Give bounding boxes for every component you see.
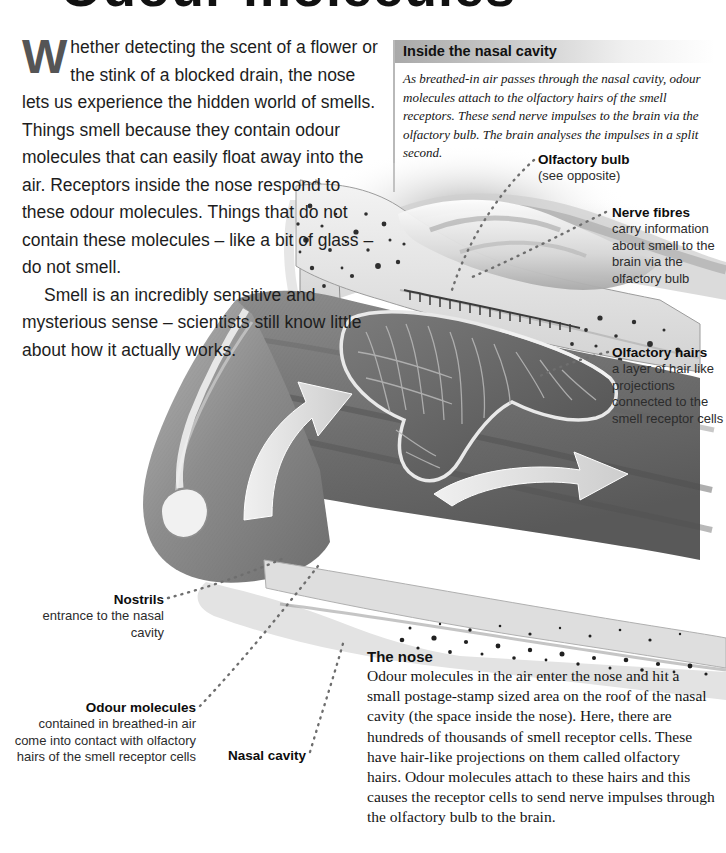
label-nerve-fibres: Nerve fibres carry information about sme… [612,205,724,287]
label-nerve-fibres-subtitle: carry information about smell to the bra… [612,221,724,287]
intro-paragraph-2: Smell is an incredibly sensitive and mys… [22,282,378,365]
label-olfactory-bulb-title: Olfactory bulb [538,152,630,168]
label-olfactory-bulb-subtitle: (see opposite) [538,168,630,185]
label-odour-molecules: Odour molecules contained in breathed-in… [10,700,196,766]
label-odour-molecules-subtitle: contained in breathed-in air come into c… [10,716,196,766]
label-olfactory-bulb: Olfactory bulb (see opposite) [538,152,630,185]
intro-text: Whether detecting the scent of a flower … [22,34,378,364]
label-odour-molecules-title: Odour molecules [10,700,196,716]
leader-nasal-cavity [310,640,344,752]
label-olfactory-hairs-subtitle: a layer of hair like projections connect… [612,361,724,427]
infobox-inside-nasal-cavity: Inside the nasal cavity As breathed-in a… [393,40,715,163]
drop-cap: W [22,38,67,76]
page-root: Odour molecules [0,0,726,853]
label-nasal-cavity: Nasal cavity [228,748,306,764]
label-nerve-fibres-title: Nerve fibres [612,205,724,221]
label-olfactory-hairs: Olfactory hairs a layer of hair like pro… [612,345,724,427]
infobox-body: As breathed-in air passes through the na… [395,63,715,163]
the-nose-heading: The nose [367,648,715,665]
infobox-heading: Inside the nasal cavity [395,40,715,63]
the-nose-body: Odour molecules in the air enter the nos… [367,666,715,828]
the-nose-section: The nose Odour molecules in the air ente… [367,648,715,828]
label-nostrils: Nostrils entrance to the nasal cavity [40,592,164,641]
label-nostrils-title: Nostrils [40,592,164,608]
intro-paragraph-1: Whether detecting the scent of a flower … [22,34,378,282]
label-nasal-cavity-title: Nasal cavity [228,748,306,764]
label-nostrils-subtitle: entrance to the nasal cavity [40,608,164,641]
label-olfactory-hairs-title: Olfactory hairs [612,345,724,361]
intro-paragraph-1-text: hether detecting the scent of a flower o… [22,37,378,277]
